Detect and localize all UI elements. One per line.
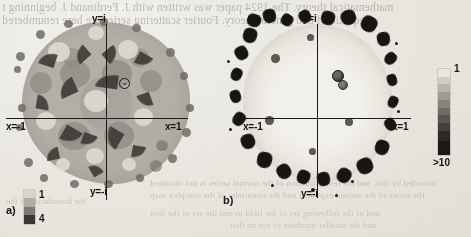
figure-a-cell-mid bbox=[140, 70, 162, 92]
figure-b-label-x-right: x=1 bbox=[392, 121, 408, 132]
figure-b-real-axis bbox=[233, 118, 411, 119]
figure-b-boundary-spike bbox=[261, 8, 277, 25]
figure-b-interior-hole bbox=[271, 54, 280, 63]
figure-b-label-y-top: y=i bbox=[303, 13, 317, 24]
figure-a-label-x-left: x=-1 bbox=[6, 121, 26, 132]
figure-a-boundary-speck bbox=[16, 52, 25, 61]
figure-a-label-x-right: x=1 bbox=[165, 121, 181, 132]
figure-b-caption-label: b) bbox=[223, 194, 233, 206]
figure-a-boundary-speck bbox=[180, 72, 188, 80]
figure-b-boundary-spike bbox=[358, 13, 380, 35]
figure-a-cell-light bbox=[88, 26, 104, 40]
figure-a-imaginary-axis bbox=[106, 24, 107, 200]
figure-b-interior-hole bbox=[307, 34, 314, 41]
figure-a-boundary-speck bbox=[132, 24, 141, 32]
figure-b-escape-dot bbox=[335, 194, 338, 197]
figure-a-boundary-speck bbox=[182, 128, 191, 137]
scanned-page: mathematical theory. The 1924 paper was … bbox=[0, 0, 471, 237]
figure-b-escape-dot bbox=[351, 180, 354, 183]
figure-b-boundary-spike bbox=[279, 12, 296, 29]
figure-a-boundary-speck bbox=[64, 20, 73, 28]
figure-b-boundary-spike bbox=[232, 44, 250, 63]
figure-b-escape-dot bbox=[395, 42, 398, 45]
figure-a-boundary-speck bbox=[168, 154, 177, 163]
figure-a-boundary-speck bbox=[136, 174, 144, 182]
figure-a-cell-light bbox=[122, 158, 136, 171]
figure-b-imaginary-axis bbox=[317, 24, 318, 198]
figure-b-panel: y=i y=-i x=-1 x=1 b) bbox=[225, 8, 415, 208]
figure-b-boundary-spike bbox=[339, 8, 359, 28]
figure-a-cell-light bbox=[134, 108, 153, 126]
figure-b-label-y-bottom: y=-i bbox=[301, 188, 318, 199]
figure-a-cell-light bbox=[84, 90, 108, 112]
figure-a-boundary-speck bbox=[186, 104, 194, 112]
figure-a-cell-light bbox=[56, 158, 70, 171]
figure-b-legend-top-value: 1 bbox=[454, 63, 460, 74]
figure-a-caption-label: a) bbox=[6, 204, 16, 216]
figure-b-boundary-spike bbox=[382, 50, 399, 67]
figure-a-cell-light bbox=[118, 40, 138, 59]
figure-a-critical-point-marker bbox=[119, 78, 130, 89]
figure-a-boundary-speck bbox=[40, 174, 48, 182]
figure-b-boundary-spike bbox=[376, 31, 391, 47]
figure-a-boundary-speck bbox=[36, 30, 45, 39]
bleedthrough-text-bottom-3: and of the following set of the field in… bbox=[150, 208, 380, 218]
figure-a-label-y-top: y=i bbox=[92, 13, 106, 24]
figure-b-interior-hole bbox=[309, 148, 316, 155]
figure-a-real-axis bbox=[6, 118, 188, 119]
bleedthrough-text-bottom-4: and the smaller numbers of not on that bbox=[230, 220, 376, 230]
figure-a-colorbar bbox=[24, 190, 35, 224]
figure-b-boundary-spike bbox=[241, 26, 259, 44]
figure-b-escape-dot bbox=[397, 110, 400, 113]
figure-a-cell-mid bbox=[30, 72, 52, 94]
figure-b-legend-bottom-value: >10 bbox=[433, 157, 450, 168]
figure-b-colorbar bbox=[438, 69, 450, 155]
figure-a-boundary-speck bbox=[14, 66, 21, 73]
figure-b-boundary-spike bbox=[229, 66, 245, 83]
figure-b-escape-dot bbox=[229, 128, 232, 131]
figure-b-escape-dot bbox=[271, 184, 274, 187]
figure-a-cell-light bbox=[86, 148, 104, 164]
figure-b-critical-point-marker-secondary bbox=[338, 80, 348, 90]
figure-a-boundary-speck bbox=[24, 158, 33, 167]
figure-a-label-y-bottom: y=-i bbox=[90, 186, 107, 197]
figure-a-legend-bottom-value: 4 bbox=[39, 213, 45, 224]
figure-a-boundary-speck bbox=[70, 180, 79, 188]
figure-b-interior-hole bbox=[345, 118, 353, 126]
figure-a-legend-top-value: 1 bbox=[39, 189, 45, 200]
figure-a-cell-light bbox=[36, 112, 56, 130]
figure-b-label-x-left: x=-1 bbox=[243, 121, 263, 132]
figure-a-boundary-speck bbox=[18, 104, 26, 112]
figure-b-boundary-spike bbox=[228, 89, 242, 105]
figure-a-boundary-speck bbox=[150, 160, 162, 172]
figure-b-escape-dot bbox=[227, 60, 230, 63]
figure-a-boundary-speck bbox=[156, 140, 168, 151]
figure-a-boundary-speck bbox=[166, 48, 175, 57]
figure-b-boundary-spike bbox=[256, 151, 274, 170]
figure-b-legend: 1 >10 bbox=[425, 55, 471, 175]
figure-a-panel: y=i y=-i x=-1 x=1 1 4 a) bbox=[0, 8, 215, 208]
